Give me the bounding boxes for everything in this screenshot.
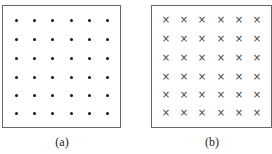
caption-a: (a) bbox=[42, 135, 82, 150]
dot-icon bbox=[88, 19, 91, 22]
cross-icon: × bbox=[179, 34, 189, 44]
cross-icon: × bbox=[197, 34, 207, 44]
dot-icon bbox=[51, 19, 54, 22]
dot-icon bbox=[51, 112, 54, 115]
dot-icon bbox=[70, 19, 73, 22]
dot-icon bbox=[106, 57, 109, 60]
cross-icon: × bbox=[234, 72, 244, 82]
dot-icon bbox=[106, 112, 109, 115]
dot-icon bbox=[70, 112, 73, 115]
dot-icon bbox=[106, 76, 109, 79]
dot-icon bbox=[15, 57, 18, 60]
panel-a-dot-grid bbox=[2, 5, 121, 128]
dot-icon bbox=[70, 38, 73, 41]
cross-icon: × bbox=[179, 72, 189, 82]
cross-icon: × bbox=[161, 53, 171, 63]
cross-icon: × bbox=[161, 34, 171, 44]
dot-icon bbox=[15, 38, 18, 41]
cross-icon: × bbox=[252, 90, 262, 100]
cross-icon: × bbox=[234, 90, 244, 100]
cross-icon: × bbox=[197, 72, 207, 82]
dot-icon bbox=[15, 76, 18, 79]
dot-icon bbox=[88, 57, 91, 60]
cross-icon: × bbox=[216, 34, 226, 44]
cross-icon: × bbox=[179, 53, 189, 63]
dot-icon bbox=[106, 94, 109, 97]
dot-icon bbox=[15, 94, 18, 97]
dot-icon bbox=[33, 57, 36, 60]
cross-icon: × bbox=[234, 108, 244, 118]
cross-icon: × bbox=[161, 72, 171, 82]
panel-b-cross-grid: ×××××××××××××××××××××××××××××××××××× bbox=[151, 5, 272, 128]
dot-icon bbox=[51, 94, 54, 97]
dot-icon bbox=[106, 38, 109, 41]
cross-icon: × bbox=[216, 72, 226, 82]
cross-icon: × bbox=[252, 34, 262, 44]
cross-icon: × bbox=[161, 15, 171, 25]
dot-icon bbox=[106, 19, 109, 22]
cross-icon: × bbox=[179, 15, 189, 25]
cross-icon: × bbox=[234, 34, 244, 44]
dot-icon bbox=[33, 76, 36, 79]
cross-icon: × bbox=[234, 15, 244, 25]
dot-icon bbox=[88, 112, 91, 115]
cross-icon: × bbox=[161, 108, 171, 118]
dot-icon bbox=[51, 38, 54, 41]
cross-icon: × bbox=[216, 108, 226, 118]
cross-icon: × bbox=[197, 90, 207, 100]
dot-icon bbox=[51, 57, 54, 60]
cross-icon: × bbox=[252, 108, 262, 118]
cross-icon: × bbox=[179, 90, 189, 100]
cross-icon: × bbox=[179, 108, 189, 118]
dot-icon bbox=[15, 112, 18, 115]
cross-icon: × bbox=[216, 90, 226, 100]
cross-icon: × bbox=[197, 108, 207, 118]
cross-icon: × bbox=[197, 15, 207, 25]
dot-icon bbox=[88, 94, 91, 97]
dot-icon bbox=[33, 112, 36, 115]
cross-icon: × bbox=[161, 90, 171, 100]
dot-icon bbox=[70, 94, 73, 97]
caption-b: (b) bbox=[192, 135, 232, 150]
dot-icon bbox=[15, 19, 18, 22]
cross-icon: × bbox=[234, 53, 244, 63]
dot-icon bbox=[88, 76, 91, 79]
cross-icon: × bbox=[252, 72, 262, 82]
dot-icon bbox=[88, 38, 91, 41]
dot-icon bbox=[70, 57, 73, 60]
dot-icon bbox=[33, 19, 36, 22]
dot-icon bbox=[33, 38, 36, 41]
dot-icon bbox=[51, 76, 54, 79]
cross-icon: × bbox=[216, 53, 226, 63]
dot-icon bbox=[33, 94, 36, 97]
cross-icon: × bbox=[252, 53, 262, 63]
dot-icon bbox=[70, 76, 73, 79]
cross-icon: × bbox=[197, 53, 207, 63]
cross-icon: × bbox=[252, 15, 262, 25]
cross-icon: × bbox=[216, 15, 226, 25]
